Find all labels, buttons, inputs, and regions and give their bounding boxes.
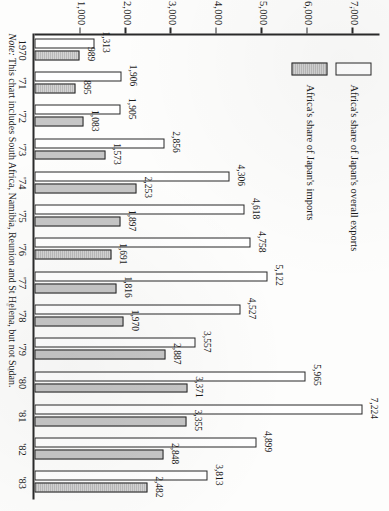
bar-value-imports: 1,897 xyxy=(126,209,136,230)
axis-tick-label: 1,000 xyxy=(75,0,86,25)
bar-exports xyxy=(34,437,256,447)
bar-imports xyxy=(34,83,75,93)
legend-label-exports: Africa's share of Japan's overall export… xyxy=(348,84,359,251)
category-axis-line xyxy=(33,33,35,499)
bar-value-exports: 1,905 xyxy=(126,98,136,119)
bar-exports xyxy=(34,470,207,480)
bar-exports xyxy=(34,171,229,181)
bar-imports xyxy=(34,416,186,426)
bar-imports xyxy=(34,216,120,226)
bar-value-imports: 2,253 xyxy=(142,176,152,197)
value-axis-line xyxy=(34,33,379,35)
scan-speck xyxy=(6,303,9,306)
bar-value-imports: 1,816 xyxy=(122,276,132,297)
bar-imports xyxy=(34,349,165,359)
bar-value-exports: 4,527 xyxy=(246,297,256,318)
bar-imports xyxy=(34,183,136,193)
bar-value-imports: 895 xyxy=(81,80,91,94)
bar-imports xyxy=(34,449,163,459)
bar-value-exports: 7,224 xyxy=(368,397,378,418)
bar-exports xyxy=(34,138,164,148)
bar-value-exports: 2,856 xyxy=(170,131,180,152)
scan-speck xyxy=(7,368,10,371)
bar-value-imports: 1,970 xyxy=(129,309,139,330)
bar-exports xyxy=(34,237,250,247)
bar-value-imports: 2,848 xyxy=(169,442,179,463)
axis-tick-label: 3,000 xyxy=(166,0,177,25)
bar-value-imports: 2,887 xyxy=(171,343,181,364)
axis-tick xyxy=(215,27,217,33)
bar-imports xyxy=(34,116,83,126)
bar-imports xyxy=(34,150,105,160)
bar-value-imports: 3,355 xyxy=(192,409,202,430)
bar-exports xyxy=(34,271,267,281)
bar-exports xyxy=(34,204,244,214)
bar-exports xyxy=(34,371,305,381)
bar-exports xyxy=(34,104,120,114)
bar-value-imports: 1,083 xyxy=(89,110,99,131)
chart-note: Note: This chart includes South Africa, … xyxy=(6,33,17,387)
rotated-page-stage: 1,0002,0003,0004,0005,0006,0007,000 1,31… xyxy=(0,0,389,511)
legend-label-imports: Africa's share of Japan's imports xyxy=(304,84,315,220)
bar-value-exports: 3,557 xyxy=(201,331,211,352)
bar-imports xyxy=(34,283,116,293)
bar-exports xyxy=(34,71,121,81)
bar-value-exports: 4,758 xyxy=(256,231,266,252)
bar-imports xyxy=(34,482,147,492)
axis-tick xyxy=(351,27,353,33)
bar-value-imports: 1,573 xyxy=(111,143,121,164)
bar-imports xyxy=(34,249,111,259)
legend-swatch-exports xyxy=(335,62,371,75)
axis-tick-label: 4,000 xyxy=(212,0,223,25)
bar-value-imports: 1,691 xyxy=(117,243,127,264)
scan-speck xyxy=(353,7,355,9)
bar-value-exports: 4,618 xyxy=(250,197,260,218)
axis-tick-label: 6,000 xyxy=(302,0,313,25)
bar-value-exports: 5,122 xyxy=(273,264,283,285)
bar-imports xyxy=(34,383,187,393)
axis-tick xyxy=(124,27,126,33)
axis-tick-label: 5,000 xyxy=(257,0,268,25)
bar-value-exports: 1,313 xyxy=(100,31,110,52)
bar-value-exports: 4,306 xyxy=(235,164,245,185)
bar-imports xyxy=(34,50,79,60)
axis-tick xyxy=(169,27,171,33)
bar-value-exports: 5,965 xyxy=(311,364,321,385)
axis-tick xyxy=(260,27,262,33)
bar-value-imports: 989 xyxy=(85,47,95,61)
axis-tick-label: 7,000 xyxy=(348,0,359,25)
bar-value-exports: 4,899 xyxy=(262,430,272,451)
bar-value-exports: 3,813 xyxy=(213,464,223,485)
legend-swatch-imports xyxy=(291,62,327,75)
bar-value-imports: 3,371 xyxy=(193,376,203,397)
axis-tick xyxy=(79,27,81,33)
category-label-83: '83 xyxy=(16,458,27,506)
chart-note-prefix: Note: xyxy=(6,33,17,55)
bar-chart: 1,0002,0003,0004,0005,0006,0007,000 1,31… xyxy=(0,0,389,511)
chart-note-text: This chart includes South Africa, Namibi… xyxy=(6,55,17,387)
axis-tick-label: 2,000 xyxy=(121,0,132,25)
bar-value-imports: 2,482 xyxy=(153,476,163,497)
bar-value-exports: 1,906 xyxy=(127,64,137,85)
bar-imports xyxy=(34,316,123,326)
axis-tick xyxy=(306,27,308,33)
